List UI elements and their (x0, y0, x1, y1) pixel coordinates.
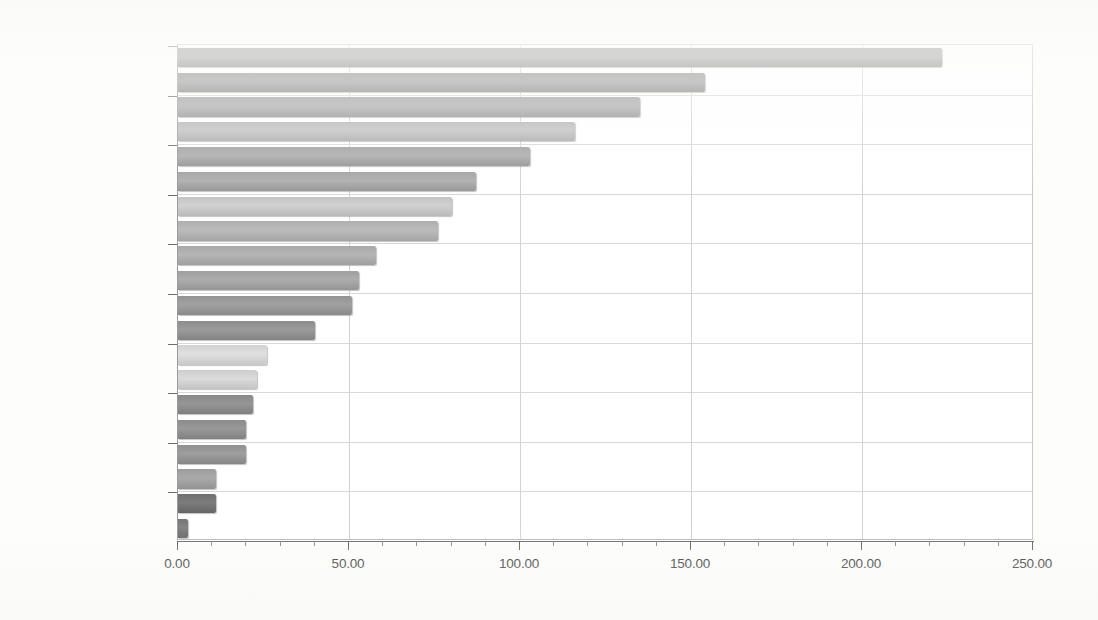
x-axis-tick-minor (416, 541, 417, 546)
y-axis-tick (168, 492, 177, 493)
gridline-vertical (691, 45, 692, 539)
y-axis-tick (168, 96, 177, 97)
bar[interactable] (178, 221, 438, 240)
bar[interactable] (178, 445, 246, 464)
y-axis-tick (168, 443, 177, 444)
y-axis-tick (168, 244, 177, 245)
x-axis-tick-minor (485, 541, 486, 546)
y-axis-tick (168, 46, 177, 47)
x-axis-line (177, 541, 1034, 542)
bar[interactable] (178, 494, 216, 513)
x-axis-tick-major (519, 541, 520, 550)
bar[interactable] (178, 197, 452, 216)
x-axis-tick-label: 150.00 (670, 556, 710, 571)
gridline-horizontal (178, 491, 1032, 492)
bar[interactable] (178, 321, 315, 340)
bar[interactable] (178, 172, 476, 191)
gridline-horizontal (178, 243, 1032, 244)
x-axis-tick-major (348, 541, 349, 550)
bar[interactable] (178, 73, 705, 92)
bar[interactable] (178, 420, 246, 439)
x-axis-tick-major (690, 541, 691, 550)
bar[interactable] (178, 345, 267, 364)
x-axis-tick-minor (929, 541, 930, 546)
x-axis-tick-major (1032, 541, 1033, 550)
x-axis-tick-minor (587, 541, 588, 546)
gridline-vertical (862, 45, 863, 539)
y-axis-tick (168, 145, 177, 146)
gridline-horizontal (178, 144, 1032, 145)
bar[interactable] (178, 246, 376, 265)
x-axis-tick-label: 200.00 (841, 556, 881, 571)
x-axis-tick-minor (964, 541, 965, 546)
x-axis-tick-minor (656, 541, 657, 546)
x-axis-tick-minor (451, 541, 452, 546)
bar[interactable] (178, 469, 216, 488)
y-axis-tick (168, 344, 177, 345)
bar[interactable] (178, 122, 575, 141)
gridline-vertical (349, 45, 350, 539)
x-axis-tick-minor (827, 541, 828, 546)
bar[interactable] (178, 97, 640, 116)
gridline-horizontal (178, 95, 1032, 96)
bar-chart: 2012.11.11 212012.11.08 192012.11.05 172… (0, 0, 1098, 620)
y-axis-tick (168, 195, 177, 196)
gridline-horizontal (178, 392, 1032, 393)
plot-area (177, 44, 1033, 540)
bar[interactable] (178, 296, 352, 315)
bar[interactable] (178, 519, 188, 538)
x-axis-tick-minor (724, 541, 725, 546)
x-axis-tick-minor (622, 541, 623, 546)
x-axis-tick-label: 100.00 (499, 556, 539, 571)
x-axis-tick-minor (553, 541, 554, 546)
gridline-vertical (520, 45, 521, 539)
x-axis-tick-minor (758, 541, 759, 546)
x-axis-tick-minor (211, 541, 212, 546)
bar[interactable] (178, 271, 359, 290)
x-axis-tick-major (861, 541, 862, 550)
bar[interactable] (178, 48, 942, 67)
x-axis-tick-minor (382, 541, 383, 546)
gridline-horizontal (178, 442, 1032, 443)
bar[interactable] (178, 395, 253, 414)
y-axis-tick (168, 393, 177, 394)
gridline-horizontal (178, 194, 1032, 195)
x-axis-tick-label: 0.00 (164, 556, 189, 571)
x-axis-tick-label: 50.00 (332, 556, 365, 571)
x-axis-tick-minor (793, 541, 794, 546)
x-axis-tick-minor (895, 541, 896, 546)
gridline-horizontal (178, 343, 1032, 344)
x-axis-tick-label: 250.00 (1012, 556, 1052, 571)
x-axis-tick-minor (314, 541, 315, 546)
x-axis-tick-major (177, 541, 178, 550)
bar[interactable] (178, 370, 257, 389)
x-axis-tick-minor (998, 541, 999, 546)
gridline-horizontal (178, 293, 1032, 294)
x-axis-tick-minor (245, 541, 246, 546)
bar[interactable] (178, 147, 530, 166)
x-axis-tick-minor (280, 541, 281, 546)
y-axis-tick (168, 294, 177, 295)
